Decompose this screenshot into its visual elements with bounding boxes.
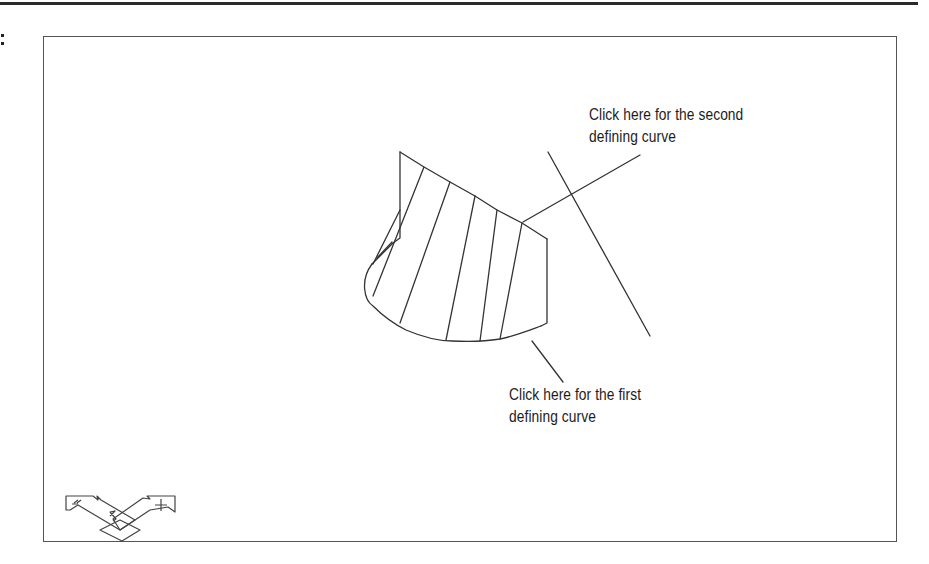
ucs-icon bbox=[66, 496, 175, 541]
callout-first-line1: Click here for the first bbox=[509, 384, 641, 406]
first-defining-curve[interactable] bbox=[365, 264, 541, 341]
drawing-canvas[interactable] bbox=[0, 0, 929, 564]
ruling-line bbox=[400, 182, 450, 323]
ruling-line bbox=[377, 242, 392, 258]
callout-second-defining-curve: Click here for the second defining curve bbox=[589, 104, 743, 148]
leader-first-curve bbox=[532, 341, 563, 382]
callout-first-defining-curve: Click here for the first defining curve bbox=[509, 384, 641, 428]
construction-line[interactable] bbox=[548, 152, 650, 336]
callout-second-line1: Click here for the second bbox=[589, 104, 743, 126]
ruling-line bbox=[480, 210, 497, 341]
second-defining-curve[interactable] bbox=[400, 152, 547, 239]
surface-right-edge bbox=[541, 239, 547, 326]
ruling-line bbox=[446, 196, 475, 340]
ruling-line bbox=[500, 223, 522, 339]
callout-second-line2: defining curve bbox=[589, 126, 743, 148]
ucs-y-glyph bbox=[72, 500, 81, 504]
callout-first-line2: defining curve bbox=[509, 406, 641, 428]
surface-left-edge bbox=[372, 152, 400, 264]
